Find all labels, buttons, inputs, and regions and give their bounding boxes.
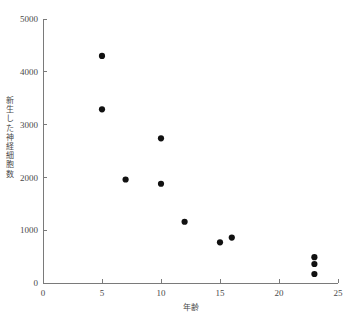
- data-point: [158, 181, 164, 187]
- scatter-plot-figure: 0510152025010002000300040005000 年齢 新 生 し…: [0, 0, 348, 317]
- data-point: [99, 106, 105, 112]
- x-tick-label: 5: [100, 288, 105, 298]
- y-tick-label: 1000: [20, 225, 39, 235]
- y-tick-label: 0: [34, 278, 39, 288]
- data-point: [311, 254, 317, 260]
- y-tick-label: 4000: [20, 67, 39, 77]
- x-tick-label: 15: [216, 288, 226, 298]
- data-point: [311, 271, 317, 277]
- y-tick-label: 3000: [20, 120, 39, 130]
- data-point: [158, 135, 164, 141]
- data-point: [182, 219, 188, 225]
- x-axis-title: 年齢: [183, 302, 199, 312]
- data-point: [229, 234, 235, 240]
- data-point: [99, 53, 105, 59]
- data-point: [123, 176, 129, 182]
- ticks-group: [43, 19, 338, 283]
- y-tick-label: 2000: [20, 173, 39, 183]
- x-tick-label: 20: [275, 288, 285, 298]
- tick-labels-group: 0510152025010002000300040005000: [20, 14, 343, 298]
- axes-group: [43, 19, 338, 283]
- data-point: [217, 239, 223, 245]
- x-tick-label: 0: [41, 288, 46, 298]
- data-points-group: [99, 53, 318, 277]
- data-point: [311, 261, 317, 267]
- x-tick-label: 10: [157, 288, 167, 298]
- plot-canvas: 0510152025010002000300040005000 年齢: [0, 0, 348, 317]
- x-tick-label: 25: [334, 288, 344, 298]
- y-tick-label: 5000: [20, 14, 39, 24]
- y-axis-title: 新 生 し た 神 経 細 胞 数: [3, 96, 17, 179]
